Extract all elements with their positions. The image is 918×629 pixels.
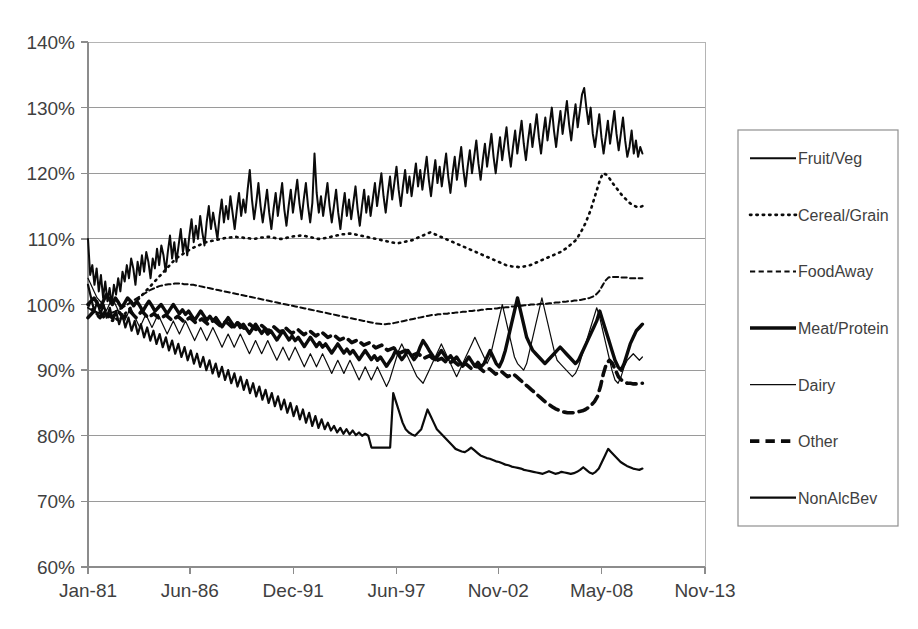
x-axis-label-1: Jun-86: [161, 580, 219, 601]
y-axis-label-5: 90%: [37, 360, 75, 381]
y-axis-label-6: 80%: [37, 426, 75, 447]
y-axis-label-3: 110%: [28, 229, 75, 250]
chart-container: 140%130%120%110%100%90%80%70%60% Jan-81J…: [0, 0, 918, 629]
legend-label-1: Cereal/Grain: [798, 207, 889, 224]
legend-label-6: NonAlcBev: [798, 490, 877, 507]
y-axis-label-1: 130%: [26, 98, 75, 119]
y-axis-label-2: 120%: [26, 163, 75, 184]
legend-label-3: Meat/Protein: [798, 320, 889, 337]
y-axis-label-7: 70%: [37, 491, 75, 512]
x-axis-label-3: Jun-97: [368, 580, 426, 601]
x-axis-label-2: Dec-91: [263, 580, 324, 601]
x-axis-label-5: May-08: [570, 580, 633, 601]
legend-label-2: FoodAway: [798, 263, 873, 280]
line-chart: 140%130%120%110%100%90%80%70%60% Jan-81J…: [0, 0, 918, 629]
x-axis-label-0: Jan-81: [59, 580, 117, 601]
legend-label-0: Fruit/Veg: [798, 150, 862, 167]
y-axis-label-8: 60%: [37, 557, 75, 578]
y-axis-label-0: 140%: [26, 32, 75, 53]
y-axis-label-4: 100%: [26, 295, 75, 316]
x-axis-label-4: Nov-02: [468, 580, 529, 601]
legend-label-5: Other: [798, 433, 839, 450]
x-axis-label-6: Nov-13: [674, 580, 735, 601]
legend-label-4: Dairy: [798, 377, 835, 394]
chart-legend: Fruit/VegCereal/GrainFoodAwayMeat/Protei…: [738, 130, 898, 526]
